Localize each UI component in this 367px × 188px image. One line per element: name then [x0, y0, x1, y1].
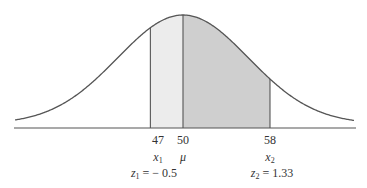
z2-label: z2 = 1.33 [251, 166, 293, 181]
tick-label-mean: 50 [177, 133, 189, 148]
tick-label-x1: 47 [152, 133, 164, 148]
tick-label-x2: 58 [264, 133, 276, 148]
var-label-mean: μ [180, 150, 186, 165]
var-label-x1: x1 [153, 150, 162, 165]
shaded-region-mean-to-x2 [183, 15, 270, 128]
shaded-region-x1-to-mean [150, 15, 183, 128]
z1-label: z1 = − 0.5 [131, 166, 177, 181]
var-label-x2: x2 [265, 150, 274, 165]
